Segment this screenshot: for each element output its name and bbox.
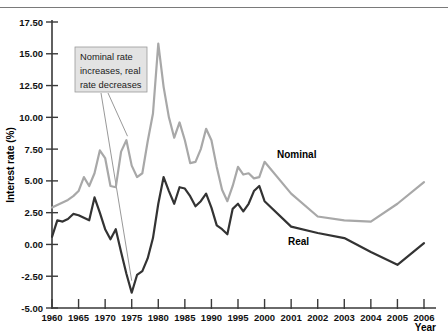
top-rule-divider [0, 7, 448, 8]
y-axis-label-group: -5.00-2.500.002.505.007.5010.0012.5015.0… [19, 17, 43, 314]
series-label-real: Real [288, 236, 309, 247]
y-axis-tick-label: -2.50 [21, 271, 43, 282]
annotation-line-2: increases, real [80, 66, 140, 76]
x-axis-tick-label: 1960 [41, 312, 62, 323]
chart-figure: -5.00-2.500.002.505.007.5010.0012.5015.0… [0, 0, 448, 336]
annotation-line-1: Nominal rate [80, 52, 133, 62]
y-axis-tick-label: 15.00 [19, 48, 43, 59]
leader-line-to-nominal [108, 93, 128, 136]
x-axis-tick-label: 2003 [334, 312, 355, 323]
x-axis-label-group: 1960196519701975198019851990199520002001… [41, 312, 434, 323]
x-axis-tick-label: 2004 [360, 312, 382, 323]
x-axis-tick-label: 2002 [307, 312, 328, 323]
interest-rate-line-chart: -5.00-2.500.002.505.007.5010.0012.5015.0… [0, 0, 448, 336]
x-axis-tick-label: 1985 [174, 312, 196, 323]
y-axis-title: Interest rate (%) [5, 127, 16, 203]
x-axis-tick-label: 2000 [254, 312, 275, 323]
x-axis-tick-label: 1995 [227, 312, 249, 323]
x-axis-tick-label: 2001 [281, 312, 303, 323]
x-axis-tick-label: 1970 [95, 312, 116, 323]
y-axis-tick-label: 2.50 [25, 207, 44, 218]
annotation-callout: Nominal rate increases, real rate decrea… [75, 47, 147, 92]
series-line-real [52, 177, 424, 293]
annotation-line-3: rate decreases [80, 80, 142, 90]
y-axis-tick-label: 0.00 [25, 239, 44, 250]
x-axis-tick-label: 1990 [201, 312, 222, 323]
y-axis-tick-label: -5.00 [21, 303, 43, 314]
y-axis-tick-label: 5.00 [25, 175, 44, 186]
y-axis-tick-label: 12.50 [19, 80, 43, 91]
y-axis-tick-label: 7.50 [25, 144, 44, 155]
series-label-nominal: Nominal [277, 149, 317, 160]
x-axis-tick-label: 1975 [121, 312, 143, 323]
y-axis-tick-label: 10.00 [19, 112, 43, 123]
x-axis-title: Year [415, 322, 436, 333]
x-axis-tick-label: 1980 [148, 312, 169, 323]
x-axis-tick-label: 2005 [387, 312, 409, 323]
y-axis-tick-label: 17.50 [19, 17, 43, 28]
x-axis-tick-label: 1965 [68, 312, 90, 323]
